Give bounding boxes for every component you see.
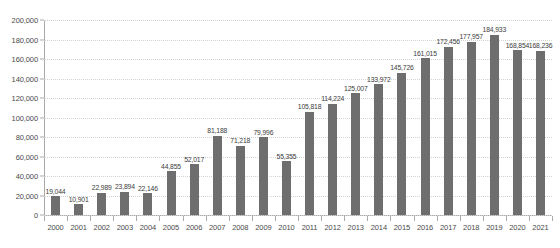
bar-slot: 172,456 (437, 20, 460, 215)
bar-slot: 161,015 (414, 20, 437, 215)
bar[interactable] (120, 192, 129, 215)
bar-slot: 145,726 (390, 20, 413, 215)
bar-slot: 71,218 (229, 20, 252, 215)
plot-area: 020,00040,00060,00080,000100,000120,0001… (44, 20, 552, 215)
bar[interactable] (282, 161, 291, 215)
bar-slot: 52,017 (183, 20, 206, 215)
x-tick-label: 2016 (417, 223, 433, 232)
x-tick-slot: 2014 (367, 216, 390, 246)
x-tick-slot: 2006 (183, 216, 206, 246)
y-tick-label: 80,000 (16, 133, 44, 142)
x-tick-slot: 2016 (414, 216, 437, 246)
x-tick-mark (159, 216, 160, 221)
bar[interactable] (351, 93, 360, 215)
bar[interactable] (421, 58, 430, 215)
bar-value-label: 19,044 (46, 188, 66, 195)
x-tick-mark (67, 216, 68, 221)
x-tick-mark (367, 216, 368, 221)
bar-slot: 168,854 (506, 20, 529, 215)
x-tick-mark (90, 216, 91, 221)
x-tick-label: 2007 (209, 223, 225, 232)
y-tick-label: 100,000 (12, 113, 44, 122)
x-tick-slot: 2011 (298, 216, 321, 246)
bar-slot: 19,044 (44, 20, 67, 215)
bar-slot: 168,236 (529, 20, 552, 215)
bar[interactable] (74, 204, 83, 215)
bar[interactable] (167, 171, 176, 215)
x-tick-mark (275, 216, 276, 221)
bar-slot: 81,188 (206, 20, 229, 215)
x-tick-label: 2006 (186, 223, 202, 232)
bar-slot: 79,996 (252, 20, 275, 215)
x-tick-slot: 2003 (113, 216, 136, 246)
x-tick-label: 2019 (486, 223, 502, 232)
bar-value-label: 172,456 (436, 38, 460, 45)
bar[interactable] (305, 112, 314, 215)
y-tick-label: 60,000 (16, 152, 44, 161)
bar-value-label: 10,901 (69, 196, 89, 203)
bar[interactable] (490, 35, 499, 215)
x-tick-slot: 2007 (206, 216, 229, 246)
x-tick-mark (252, 216, 253, 221)
bar[interactable] (190, 164, 199, 215)
x-tick-mark (113, 216, 114, 221)
bar-value-label: 79,996 (253, 129, 273, 136)
x-tick-slot: 2021 (529, 216, 552, 246)
x-axis-labels: 2000200120022003200420052006200720082009… (44, 216, 552, 246)
y-tick-label: 20,000 (16, 191, 44, 200)
x-tick-label: 2010 (278, 223, 294, 232)
x-tick-mark (529, 216, 530, 221)
bar[interactable] (536, 51, 545, 215)
x-tick-mark (390, 216, 391, 221)
x-tick-slot: 2010 (275, 216, 298, 246)
bar-slot: 125,007 (344, 20, 367, 215)
x-tick-label: 2003 (117, 223, 133, 232)
x-tick-label: 2015 (394, 223, 410, 232)
bar-value-label: 44,855 (161, 163, 181, 170)
x-tick-label: 2020 (509, 223, 525, 232)
x-tick-mark (506, 216, 507, 221)
bar-value-label: 125,007 (344, 85, 368, 92)
bar[interactable] (374, 84, 383, 215)
bar[interactable] (97, 193, 106, 215)
y-tick-label: 120,000 (12, 94, 44, 103)
y-tick-label: 160,000 (12, 55, 44, 64)
x-tick-slot: 2008 (229, 216, 252, 246)
bar-slot: 22,146 (136, 20, 159, 215)
bar-value-label: 177,957 (459, 33, 483, 40)
bar[interactable] (51, 196, 60, 215)
bar-series: 19,04410,90122,98923,89422,14644,85552,0… (44, 20, 552, 215)
x-tick-label: 2001 (70, 223, 86, 232)
x-tick-label: 2021 (532, 223, 548, 232)
x-tick-slot: 2018 (460, 216, 483, 246)
x-tick-slot: 2009 (252, 216, 275, 246)
x-tick-slot: 2005 (159, 216, 182, 246)
x-tick-slot: 2015 (390, 216, 413, 246)
bar[interactable] (236, 146, 245, 215)
x-tick-mark (321, 216, 322, 221)
x-tick-slot: 2013 (344, 216, 367, 246)
bar[interactable] (259, 137, 268, 215)
bar-value-label: 81,188 (207, 127, 227, 134)
bar[interactable] (397, 73, 406, 215)
x-tick-mark (552, 216, 553, 221)
x-tick-slot: 2017 (437, 216, 460, 246)
bar-value-label: 71,218 (230, 137, 250, 144)
bar[interactable] (513, 50, 522, 215)
bar-slot: 10,901 (67, 20, 90, 215)
bar-value-label: 22,989 (92, 184, 112, 191)
x-tick-mark (344, 216, 345, 221)
x-tick-label: 2000 (47, 223, 63, 232)
bar-value-label: 55,355 (277, 153, 297, 160)
bar[interactable] (328, 104, 337, 215)
x-tick-slot: 2019 (483, 216, 506, 246)
bar[interactable] (143, 193, 152, 215)
bar[interactable] (467, 42, 476, 216)
bar[interactable] (444, 47, 453, 215)
bar[interactable] (213, 136, 222, 215)
bar-value-label: 168,236 (529, 42, 553, 49)
x-tick-label: 2013 (348, 223, 364, 232)
x-tick-label: 2011 (302, 223, 318, 232)
y-tick-label: 40,000 (16, 172, 44, 181)
bar-slot: 177,957 (460, 20, 483, 215)
